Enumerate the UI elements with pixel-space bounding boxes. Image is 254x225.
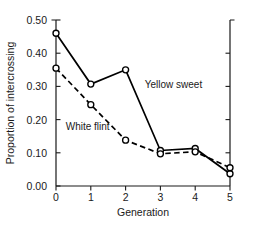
series-label-white-flint: White flint xyxy=(66,121,110,132)
x-tick-labels: 0 1 2 3 4 5 xyxy=(53,191,233,203)
y-tick-label-3: 0.30 xyxy=(27,80,48,92)
data-point xyxy=(192,149,198,155)
y-tickmarks xyxy=(56,20,61,186)
y-tick-label-5: 0.50 xyxy=(27,14,48,26)
y-axis-title: Proportion of intercrossing xyxy=(4,42,16,165)
series-label-yellow-sweet: Yellow sweet xyxy=(145,79,203,90)
line-chart-canvas: 0.00 0.10 0.20 0.30 0.40 0.50 0 1 2 3 4 … xyxy=(0,0,254,225)
data-point xyxy=(88,102,94,108)
data-point xyxy=(88,81,94,87)
x-tick-label-0: 0 xyxy=(53,191,59,203)
x-tick-label-3: 3 xyxy=(157,191,163,203)
y-tick-label-2: 0.20 xyxy=(27,114,48,126)
y-axis-spine xyxy=(52,20,57,186)
x-tickmarks xyxy=(56,186,230,191)
series-line-white-flint xyxy=(56,68,230,168)
x-axis-title: Generation xyxy=(117,206,169,218)
y-tick-label-1: 0.10 xyxy=(27,147,48,159)
data-point xyxy=(53,30,59,36)
series-markers-yellow-sweet xyxy=(53,30,233,176)
x-tick-label-1: 1 xyxy=(88,191,94,203)
x-tick-label-5: 5 xyxy=(227,191,233,203)
series-markers-white-flint xyxy=(53,65,233,171)
data-point xyxy=(123,137,129,143)
data-point xyxy=(53,65,59,71)
data-point xyxy=(227,171,233,177)
y-tick-label-4: 0.40 xyxy=(27,47,48,59)
data-point xyxy=(123,67,129,73)
x-tick-label-2: 2 xyxy=(123,191,129,203)
chart-figure: 0.00 0.10 0.20 0.30 0.40 0.50 0 1 2 3 4 … xyxy=(0,0,254,225)
y-tick-label-0: 0.00 xyxy=(27,180,48,192)
series-group xyxy=(53,30,233,176)
right-axis-spine xyxy=(230,20,235,186)
y-tick-labels: 0.00 0.10 0.20 0.30 0.40 0.50 xyxy=(27,14,48,192)
axes-group xyxy=(52,20,235,186)
series-line-yellow-sweet xyxy=(56,33,230,173)
data-point xyxy=(227,165,233,171)
right-tickmarks xyxy=(226,53,231,153)
x-tick-label-4: 4 xyxy=(192,191,198,203)
data-point xyxy=(157,151,163,157)
